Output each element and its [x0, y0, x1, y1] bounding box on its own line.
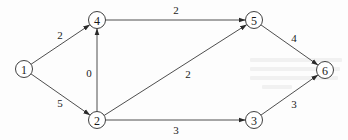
edge-weight-label: 2	[57, 29, 63, 41]
node-1: 1	[16, 61, 33, 78]
edge-weight-label: 4	[291, 32, 297, 44]
node-label: 6	[322, 64, 328, 78]
edge-3-to-6	[261, 75, 318, 115]
node-6: 6	[317, 62, 334, 79]
edge-2-to-5	[104, 25, 246, 116]
edge-weight-label: 3	[173, 124, 179, 136]
nodes-layer: 123456	[16, 12, 334, 129]
edge-weight-label: 0	[86, 67, 92, 79]
node-4: 4	[89, 12, 106, 29]
node-2: 2	[89, 112, 106, 129]
node-3: 3	[246, 112, 263, 129]
edge-weight-label: 5	[57, 97, 63, 109]
node-label: 3	[251, 114, 257, 128]
node-5: 5	[246, 12, 263, 29]
edges-layer	[31, 20, 318, 120]
node-label: 4	[94, 14, 100, 28]
diagram-canvas: 25022343 123456	[0, 0, 348, 140]
edge-weight-label: 2	[173, 4, 179, 16]
edge-weight-label: 3	[291, 98, 297, 110]
node-label: 2	[94, 114, 100, 128]
node-label: 5	[251, 14, 257, 28]
graph-svg: 25022343 123456	[0, 0, 348, 140]
edge-weight-label: 2	[185, 68, 191, 80]
node-label: 1	[21, 63, 27, 77]
edge-5-to-6	[261, 25, 318, 65]
